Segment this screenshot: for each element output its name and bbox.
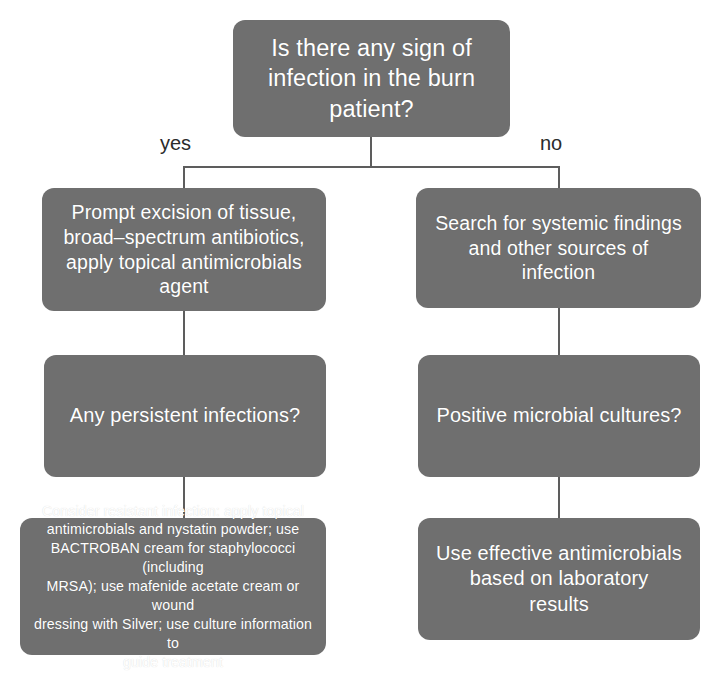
node-root-decision: Is there any sign of infection in the bu… xyxy=(233,20,510,137)
node-yes-action-3-text: Consider resistant infection: apply topi… xyxy=(28,502,318,672)
connector-no-2-to-3 xyxy=(558,477,560,518)
node-no-action-3: Use effective antimicrobials based on la… xyxy=(418,518,700,640)
node-root-text: Is there any sign of infection in the bu… xyxy=(241,33,502,123)
node-yes-decision-2: Any persistent infections? xyxy=(44,355,326,477)
node-no-action-1: Search for systemic findings and other s… xyxy=(416,188,701,308)
node-yes-action-1: Prompt excision of tissue, broad–spectru… xyxy=(42,188,326,311)
node-yes-decision-2-text: Any persistent infections? xyxy=(52,403,318,429)
connector-root-stem xyxy=(370,137,372,167)
node-no-action-1-text: Search for systemic findings and other s… xyxy=(424,211,693,286)
connector-yes-drop xyxy=(183,166,185,190)
node-yes-action-3: Consider resistant infection: apply topi… xyxy=(20,518,326,655)
connector-no-drop xyxy=(558,166,560,190)
edge-label-no: no xyxy=(540,132,562,155)
connector-yes-1-to-2 xyxy=(183,311,185,355)
connector-split-bar xyxy=(183,166,560,168)
node-no-decision-2: Positive microbial cultures? xyxy=(418,355,700,477)
edge-label-yes: yes xyxy=(160,132,191,155)
node-yes-action-1-text: Prompt excision of tissue, broad–spectru… xyxy=(50,200,318,300)
flowchart-canvas: Is there any sign of infection in the bu… xyxy=(0,0,728,679)
connector-no-1-to-2 xyxy=(558,308,560,355)
node-no-action-3-text: Use effective antimicrobials based on la… xyxy=(426,541,692,618)
node-no-decision-2-text: Positive microbial cultures? xyxy=(426,403,692,429)
